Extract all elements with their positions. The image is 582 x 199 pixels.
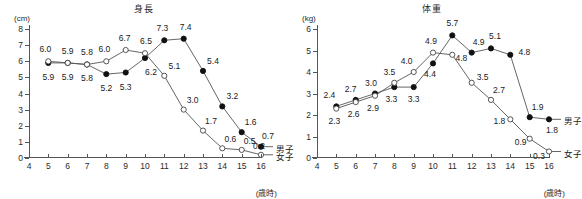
data-label-boys: 5.1 [489,32,501,41]
y-tick-label: 0 [18,154,23,163]
x-tick-label: 10 [140,162,149,171]
data-label-girls: 5.8 [81,48,93,57]
y-tick [25,126,29,127]
data-label-boys: 7.4 [180,22,192,31]
data-label-boys: 5.9 [62,73,74,82]
data-point-girls [104,59,109,64]
data-label-girls: 6.7 [119,34,131,43]
y-tick-label: 2 [306,111,311,120]
y-tick [313,158,317,159]
x-tick-label: 9 [123,162,128,171]
data-label-girls: 1.8 [493,117,505,126]
data-label-girls: 0.3 [533,151,545,160]
data-point-girls [84,62,89,67]
x-tick [126,154,127,158]
x-tick [549,154,550,158]
y-tick-label: 7 [18,41,23,50]
y-tick [25,45,29,46]
x-tick-label: 4 [315,162,320,171]
y-tick [25,94,29,95]
chart-title-weight: 体重 [288,2,575,15]
x-tick-label: 12 [467,162,476,171]
x-tick [491,154,492,158]
plot-area-weight: 0123456456789101112131415162.42.73.03.33… [317,29,549,158]
x-tick-label: 7 [373,162,378,171]
x-tick [242,154,243,158]
x-tick-label: 14 [218,162,227,171]
y-tick-label: 4 [18,89,23,98]
x-tick-label: 5 [46,162,51,171]
data-point-girls [162,73,167,78]
data-label-girls: 5.9 [62,47,74,56]
data-point-girls [142,51,147,56]
data-point-girls [239,147,244,152]
x-tick [433,154,434,158]
y-tick [25,29,29,30]
data-label-boys: 6.2 [145,68,157,77]
data-point-girls [123,47,128,52]
legend-label-boys: 男子 [564,114,582,126]
y-tick-label: 3 [306,89,311,98]
y-tick [25,77,29,78]
y-tick-label: 5 [306,46,311,55]
x-tick [145,154,146,158]
panel-weight: 体重 (kg) (歳時) 012345645678910111213141516… [288,0,575,199]
x-tick [394,154,395,158]
y-tick-label: 3 [18,105,23,114]
panel-height: 身長 (cm) (歳時) 012345678456789101112131415… [0,0,287,199]
x-tick [48,154,49,158]
data-point-boys [411,85,416,90]
x-tick [375,154,376,158]
y-tick [313,137,317,138]
x-tick-label: 8 [392,162,397,171]
y-tick-label: 5 [18,73,23,82]
data-point-girls [220,146,225,151]
data-point-girls [65,60,70,65]
y-tick-label: 6 [306,25,311,34]
data-point-girls [200,128,205,133]
x-tick-label: 11 [448,162,457,171]
data-label-girls: 2.7 [493,86,505,95]
data-point-girls [334,106,339,111]
plot-area-height: 012345678456789101112131415165.95.95.85.… [29,29,261,158]
data-point-boys [104,72,109,77]
chart-title-height: 身長 [0,2,287,15]
x-tick-label: 12 [179,162,188,171]
data-label-boys: 2.7 [345,85,357,94]
data-label-boys: 2.4 [323,91,335,100]
data-point-girls [353,100,358,105]
data-label-boys: 1.6 [245,118,257,127]
y-axis-unit-weight: (kg) [302,14,316,23]
x-tick [472,154,473,158]
x-tick [336,154,337,158]
data-label-girls: 0.6 [224,135,236,144]
data-point-girls [181,107,186,112]
data-point-boys [162,38,167,43]
data-label-boys: 5.7 [446,19,458,28]
x-tick [452,154,453,158]
data-point-girls [527,136,532,141]
data-label-girls: 0.9 [515,137,527,146]
y-tick [313,115,317,116]
y-tick [25,142,29,143]
data-label-girls: 2.3 [328,116,340,125]
y-tick-label: 0 [306,154,311,163]
data-label-girls: 3.5 [383,68,395,77]
data-point-boys [200,68,205,73]
y-tick [313,94,317,95]
x-tick-label: 4 [27,162,32,171]
data-label-boys: 5.2 [100,84,112,93]
x-tick [261,154,262,158]
x-tick [164,154,165,158]
y-axis-unit-height: (cm) [14,14,30,23]
y-tick-label: 4 [306,68,311,77]
x-axis-unit-height: (歳時) [256,187,277,198]
data-point-boys [527,115,532,120]
data-point-girls [372,93,377,98]
x-tick-label: 15 [525,162,534,171]
x-tick-label: 13 [486,162,495,171]
data-point-boys [430,61,435,66]
y-tick [313,51,317,52]
x-tick [184,154,185,158]
